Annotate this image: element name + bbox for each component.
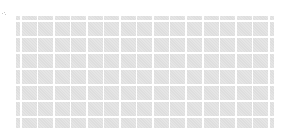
grid-tile — [237, 54, 252, 68]
grid-tile — [71, 38, 86, 52]
grid-tile — [22, 86, 37, 100]
grid-tile — [121, 102, 136, 116]
grid-tile — [137, 86, 152, 100]
grid-tile — [253, 86, 268, 100]
grid-tile — [154, 70, 169, 84]
grid-tile — [38, 22, 53, 36]
grid-tile — [121, 16, 136, 20]
grid-tile — [253, 118, 268, 128]
grid-tile — [154, 16, 169, 20]
grid-tile — [88, 118, 103, 128]
grid-tile — [121, 54, 136, 68]
grid-tile — [220, 102, 235, 116]
grid-tile — [237, 16, 252, 20]
grid-tile — [270, 102, 274, 116]
grid-tile — [88, 16, 103, 20]
grid-tile — [270, 118, 274, 128]
grid-tile — [22, 118, 37, 128]
grid-tile — [55, 38, 70, 52]
grid-tile — [220, 70, 235, 84]
grid-tile — [187, 54, 202, 68]
grid-tile — [253, 102, 268, 116]
grid-tile — [16, 118, 20, 128]
grid-tile — [71, 70, 86, 84]
grid-tile — [237, 38, 252, 52]
grid-tile — [121, 22, 136, 36]
grid-tile — [16, 54, 20, 68]
grid-tile — [22, 16, 37, 20]
grid-tile — [71, 16, 86, 20]
grid-tile — [55, 54, 70, 68]
grid-tile — [237, 118, 252, 128]
grid-tile — [22, 102, 37, 116]
grid-tile — [88, 22, 103, 36]
grid-tile — [55, 118, 70, 128]
grid-tile — [55, 102, 70, 116]
grid-tile — [170, 16, 185, 20]
grid-tile — [220, 118, 235, 128]
grid-tile — [71, 22, 86, 36]
grid-tile — [71, 54, 86, 68]
grid-tile — [170, 54, 185, 68]
grid-tile — [154, 102, 169, 116]
grid-tile — [104, 38, 119, 52]
grid-tile — [137, 102, 152, 116]
grid-tile — [187, 22, 202, 36]
grid-tile — [38, 16, 53, 20]
grid-tile — [170, 22, 185, 36]
grid-tile — [137, 118, 152, 128]
grid-tile — [237, 86, 252, 100]
grid-tile — [55, 70, 70, 84]
grid-tile — [55, 86, 70, 100]
grid-tile — [270, 22, 274, 36]
grid-tile — [22, 38, 37, 52]
grid-tile — [170, 102, 185, 116]
grid-tile — [187, 118, 202, 128]
grid-tile — [104, 118, 119, 128]
grid-tile — [38, 38, 53, 52]
grid-tile — [187, 70, 202, 84]
corner-speck-icon — [2, 12, 6, 15]
grid-tile — [154, 86, 169, 100]
grid-tile — [137, 54, 152, 68]
grid-tile — [38, 102, 53, 116]
grid-tile — [270, 86, 274, 100]
grid-tile — [237, 22, 252, 36]
grid-tile — [220, 22, 235, 36]
grid-tile — [204, 86, 219, 100]
grid-tile — [104, 16, 119, 20]
grid-tile — [104, 102, 119, 116]
grid-tile — [253, 16, 268, 20]
grid-tile — [38, 70, 53, 84]
grid-tile — [154, 22, 169, 36]
grid-tile — [22, 22, 37, 36]
grid-tile — [121, 70, 136, 84]
grid-tile — [104, 54, 119, 68]
grid-tile — [16, 38, 20, 52]
grid-tile — [270, 54, 274, 68]
grid-tile — [71, 102, 86, 116]
grid-tile — [204, 22, 219, 36]
grid-tile — [187, 102, 202, 116]
tile-grid — [16, 16, 277, 128]
grid-tile — [237, 70, 252, 84]
grid-tile — [253, 70, 268, 84]
grid-tile — [71, 118, 86, 128]
grid-tile — [16, 86, 20, 100]
grid-tile — [253, 22, 268, 36]
grid-tile — [16, 70, 20, 84]
grid-tile — [16, 102, 20, 116]
grid-tile — [137, 22, 152, 36]
grid-tile — [16, 16, 20, 20]
grid-tile — [154, 54, 169, 68]
grid-tile — [204, 70, 219, 84]
grid-tile — [55, 22, 70, 36]
grid-tile — [253, 38, 268, 52]
grid-tile — [38, 118, 53, 128]
grid-tile — [137, 38, 152, 52]
grid-tile — [187, 86, 202, 100]
grid-tile — [22, 54, 37, 68]
grid-tile — [71, 86, 86, 100]
grid-tile — [154, 118, 169, 128]
grid-tile — [220, 86, 235, 100]
